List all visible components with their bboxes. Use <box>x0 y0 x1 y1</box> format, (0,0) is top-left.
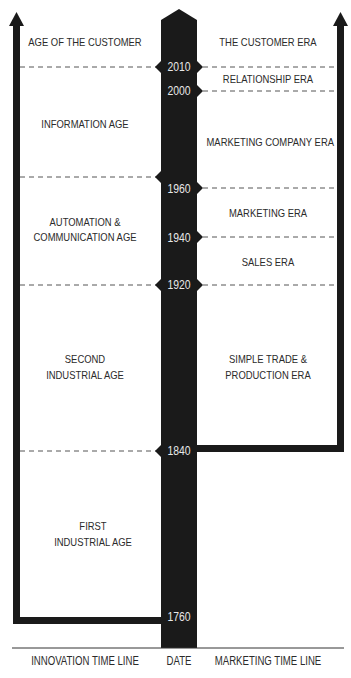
date-1940: 1940 <box>165 231 194 245</box>
period-automation-communication-age-line1: AUTOMATION & <box>24 215 147 230</box>
period-automation-communication-age-line2: COMMUNICATION AGE <box>24 230 147 245</box>
period-first-industrial-age-line1: FIRST <box>32 519 155 534</box>
footer-date: DATE <box>163 654 195 668</box>
period-relationship-era: RELATIONSHIP ERA <box>207 72 330 87</box>
period-information-age: INFORMATION AGE <box>24 117 147 132</box>
date-1840: 1840 <box>165 444 194 458</box>
date-1920: 1920 <box>165 278 194 292</box>
period-second-industrial-age-line2: INDUSTRIAL AGE <box>24 368 147 383</box>
footer-innovation-timeline: INNOVATION TIME LINE <box>25 654 145 668</box>
period-customer-era: THE CUSTOMER ERA <box>207 35 330 50</box>
period-marketing-company-era: MARKETING COMPANY ERA <box>207 135 330 150</box>
period-marketing-era: MARKETING ERA <box>207 206 330 221</box>
date-bar <box>155 9 203 648</box>
dashed-dividers-right <box>203 67 337 285</box>
period-first-industrial-age-line2: INDUSTRIAL AGE <box>32 535 155 550</box>
period-second-industrial-age-line1: SECOND <box>24 352 147 367</box>
date-2010: 2010 <box>165 60 194 74</box>
period-simple-trade-production-era-line2: PRODUCTION ERA <box>207 368 330 383</box>
period-sales-era: SALES ERA <box>207 255 330 270</box>
timeline-graphic <box>0 0 351 678</box>
date-1960: 1960 <box>165 182 194 196</box>
date-1760: 1760 <box>165 610 194 624</box>
footer-marketing-timeline: MARKETING TIME LINE <box>208 654 328 668</box>
period-age-of-customer: AGE OF THE CUSTOMER <box>24 35 147 50</box>
period-simple-trade-production-era-line1: SIMPLE TRADE & <box>207 352 330 367</box>
date-2000: 2000 <box>165 84 194 98</box>
